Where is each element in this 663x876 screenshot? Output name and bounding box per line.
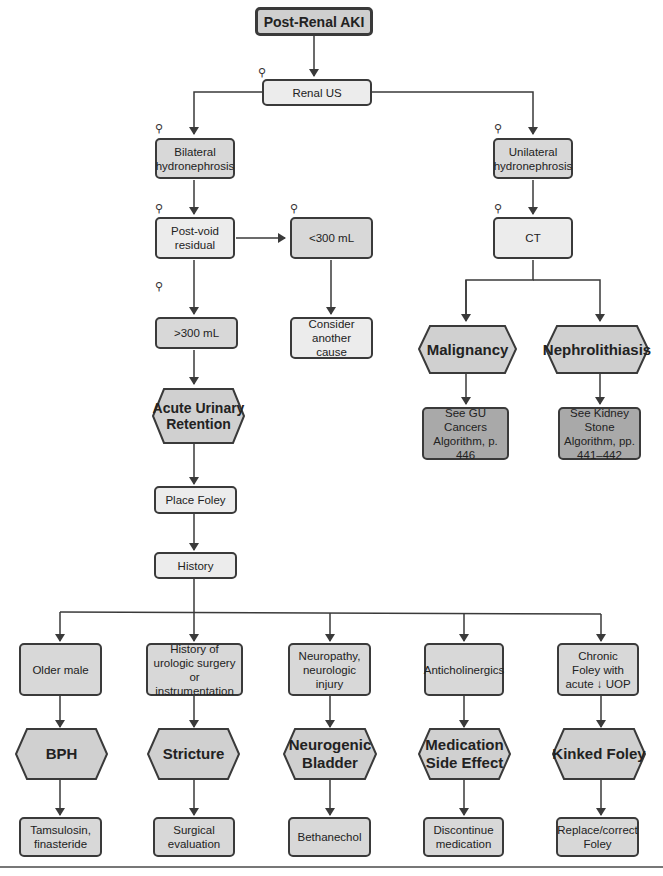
place-foley-node: Place Foley xyxy=(154,486,237,514)
dx-label-1: BPH xyxy=(46,745,78,763)
dx-hex-5: Kinked Foley xyxy=(552,728,646,780)
renal-us-node: Renal US xyxy=(262,79,372,106)
tx-node-4: Discontinue medication xyxy=(423,817,504,857)
dx-label-4: Medication Side Effect xyxy=(418,736,511,772)
dx-label-2: Stricture xyxy=(163,745,225,763)
microscope-icon: ⚲ xyxy=(258,67,266,78)
aur-hex: Acute Urinary Retention xyxy=(152,388,245,444)
dx-hex-2: Stricture xyxy=(147,728,240,780)
malignancy-hex: Malignancy xyxy=(418,325,517,374)
kidney-stone-ref[interactable]: See Kidney Stone Algorithm, pp. 441–442 xyxy=(558,407,641,460)
bilateral-node: Bilateral hydronephrosis xyxy=(155,138,235,179)
dx-label-5: Kinked Foley xyxy=(552,745,645,763)
microscope-icon: ⚲ xyxy=(494,203,502,214)
tx-node-2: Surgical evaluation xyxy=(153,817,235,857)
microscope-icon: ⚲ xyxy=(155,281,163,292)
nephrolithiasis-hex: Nephrolithiasis xyxy=(545,325,649,374)
nephrolithiasis-label: Nephrolithiasis xyxy=(543,341,651,359)
cause-node-2: History of urologic surgery or instrumen… xyxy=(146,643,243,696)
gu-cancers-ref[interactable]: See GU Cancers Algorithm, p. 446 xyxy=(422,407,509,460)
dx-hex-4: Medication Side Effect xyxy=(418,728,511,780)
pvr-node: Post-void residual xyxy=(155,217,235,259)
root-node: Post-Renal AKI xyxy=(255,7,373,36)
unilateral-node: Unilateral hydronephrosis xyxy=(493,138,573,179)
tx-node-1: Tamsulosin, finasteride xyxy=(19,817,102,857)
tx-node-5: Replace/correct Foley xyxy=(556,817,639,857)
malignancy-label: Malignancy xyxy=(427,341,509,359)
dx-hex-3: Neurogenic Bladder xyxy=(283,728,377,780)
ct-node: CT xyxy=(493,217,573,259)
cause-node-3: Neuropathy, neurologic injury xyxy=(288,643,371,696)
consider-node: Consider another cause xyxy=(290,317,373,359)
microscope-icon: ⚲ xyxy=(155,123,163,134)
cause-node-4: Anticholinergics xyxy=(424,643,504,696)
microscope-icon: ⚲ xyxy=(494,123,502,134)
microscope-icon: ⚲ xyxy=(290,203,298,214)
history-node: History xyxy=(154,552,237,579)
cause-node-5: Chronic Foley with acute ↓ UOP xyxy=(557,643,639,696)
microscope-icon: ⚲ xyxy=(155,203,163,214)
dx-hex-1: BPH xyxy=(15,728,108,780)
tx-node-3: Bethanechol xyxy=(288,817,371,857)
gt300-node: >300 mL xyxy=(155,317,238,349)
cause-node-1: Older male xyxy=(19,643,102,696)
aur-label: Acute Urinary Retention xyxy=(152,400,245,432)
dx-label-3: Neurogenic Bladder xyxy=(283,736,377,772)
bottom-divider xyxy=(0,866,663,868)
lt300-node: <300 mL xyxy=(290,217,373,259)
